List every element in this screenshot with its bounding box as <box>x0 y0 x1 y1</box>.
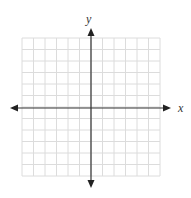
x-axis-left-arrow-icon <box>10 105 18 112</box>
x-axis-label: x <box>177 101 184 115</box>
x-axis-right-arrow-icon <box>163 105 171 112</box>
y-axis-top-arrow-icon <box>88 28 95 36</box>
coordinate-plane: x y <box>0 0 191 198</box>
y-axis-bottom-arrow-icon <box>88 180 95 188</box>
y-axis-label: y <box>85 12 92 26</box>
